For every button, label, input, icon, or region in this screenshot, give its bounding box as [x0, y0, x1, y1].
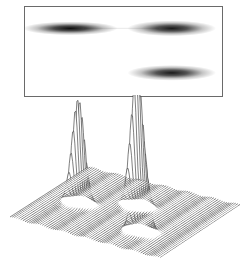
- surface-plot-panel: [0, 95, 249, 265]
- separation-image-panel: [24, 6, 223, 97]
- spot-3: [127, 65, 216, 81]
- spot-1: [25, 22, 118, 36]
- surface-plot: [0, 95, 249, 265]
- separation-image: [25, 7, 222, 96]
- spot-2: [127, 21, 216, 37]
